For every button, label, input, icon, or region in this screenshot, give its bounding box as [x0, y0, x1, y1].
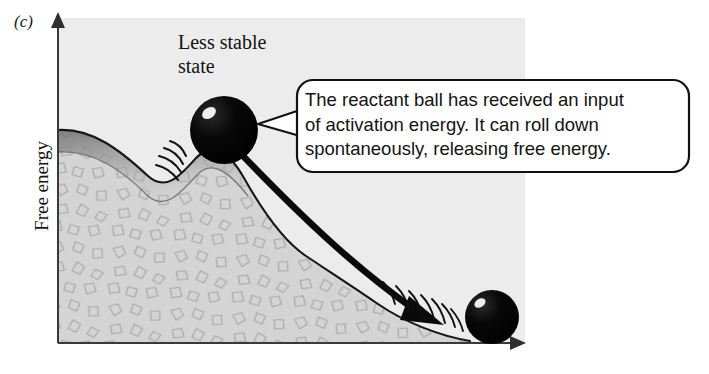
- less-stable-state-label: Less stable state: [178, 30, 338, 79]
- callout-text: The reactant ball has received an input …: [305, 88, 680, 162]
- callout-line-1: The reactant ball has received an input: [305, 88, 680, 113]
- product-ball: [465, 290, 519, 344]
- callout-line-3: spontaneously, releasing free energy.: [305, 137, 680, 162]
- less-stable-state-line2: state: [178, 54, 338, 78]
- y-axis-label: Free energy: [31, 106, 53, 266]
- free-energy-diagram-panel-c: (c) Free energy Less stable state The re…: [0, 0, 709, 374]
- diagram-canvas: [0, 0, 709, 374]
- panel-label: (c): [14, 12, 33, 32]
- reactant-ball: [190, 96, 258, 164]
- less-stable-state-line1: Less stable: [178, 30, 338, 54]
- callout-line-2: of activation energy. It can roll down: [305, 113, 680, 138]
